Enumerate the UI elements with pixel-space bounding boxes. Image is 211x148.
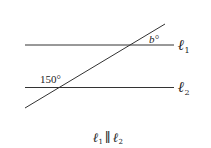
angle-150-label: 150°	[40, 73, 61, 85]
transversal-line	[25, 24, 165, 108]
l1-label: ℓ1	[178, 36, 190, 55]
parallel-caption: ℓ1∥ℓ2	[93, 130, 123, 146]
diagram-canvas: b° 150° ℓ1 ℓ2 ℓ1∥ℓ2	[0, 0, 211, 148]
l2-label: ℓ2	[178, 78, 190, 97]
angle-b-label: b°	[149, 33, 160, 45]
